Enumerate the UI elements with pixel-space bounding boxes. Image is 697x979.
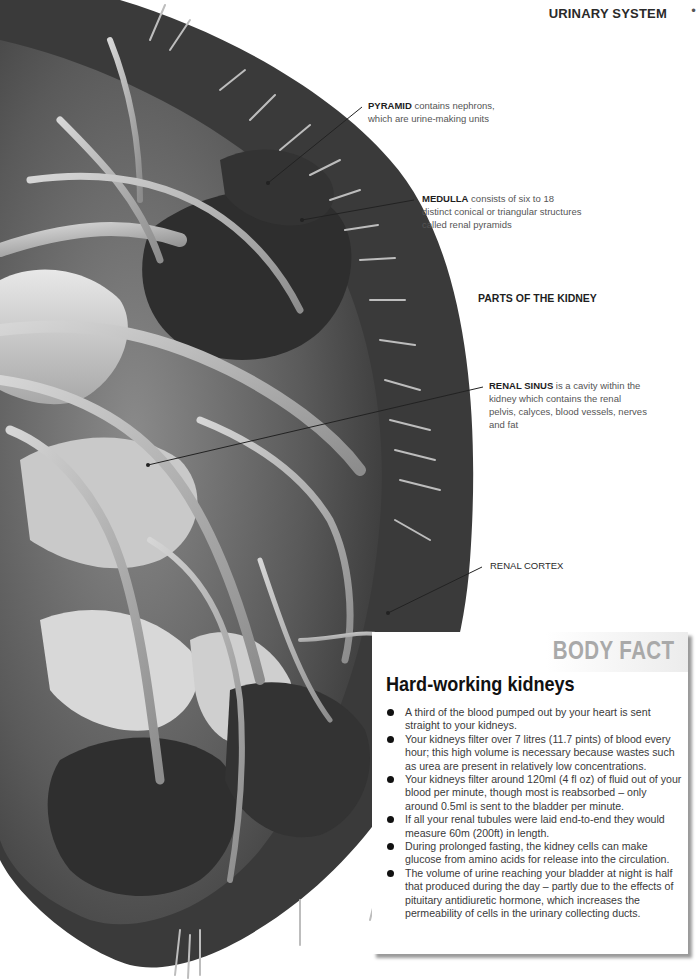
body-fact-list: A third of the blood pumped out by your … bbox=[386, 706, 682, 921]
body-fact-title: Hard-working kidneys bbox=[386, 672, 575, 696]
bullet-icon bbox=[387, 843, 394, 850]
bullet-icon bbox=[387, 870, 394, 877]
label-pyramid-term: PYRAMID bbox=[368, 100, 412, 111]
bullet-icon bbox=[387, 776, 394, 783]
body-fact-kicker: BODY FACT bbox=[552, 636, 674, 665]
label-pyramid: PYRAMID contains nephrons, which are uri… bbox=[368, 99, 498, 125]
label-renal-cortex: RENAL CORTEX bbox=[490, 559, 610, 572]
label-medulla: MEDULLA consists of six to 18 distinct c… bbox=[422, 192, 582, 231]
bullet-icon bbox=[387, 816, 394, 823]
body-fact-item: During prolonged fasting, the kidney cel… bbox=[386, 840, 682, 867]
parts-of-kidney-heading: PARTS OF THE KIDNEY bbox=[478, 292, 597, 304]
label-medulla-term: MEDULLA bbox=[422, 193, 468, 204]
page-mark: • bbox=[690, 4, 697, 18]
label-renal-sinus-term: RENAL SINUS bbox=[489, 380, 553, 391]
body-fact-item: A third of the blood pumped out by your … bbox=[386, 706, 682, 733]
label-renal-sinus: RENAL SINUS is a cavity within the kidne… bbox=[489, 379, 649, 431]
bullet-icon bbox=[387, 736, 394, 743]
body-fact-item: If all your renal tubules were laid end-… bbox=[386, 813, 682, 840]
body-fact-item: Your kidneys filter around 120ml (4 fl o… bbox=[386, 773, 682, 813]
body-fact-box: BODY FACT Hard-working kidneys A third o… bbox=[372, 632, 688, 954]
label-renal-cortex-term: RENAL CORTEX bbox=[490, 560, 563, 571]
body-fact-item: The volume of urine reaching your bladde… bbox=[386, 867, 682, 921]
bullet-icon bbox=[387, 709, 394, 716]
section-title: URINARY SYSTEM bbox=[549, 6, 667, 21]
body-fact-item: Your kidneys filter over 7 litres (11.7 … bbox=[386, 733, 682, 773]
